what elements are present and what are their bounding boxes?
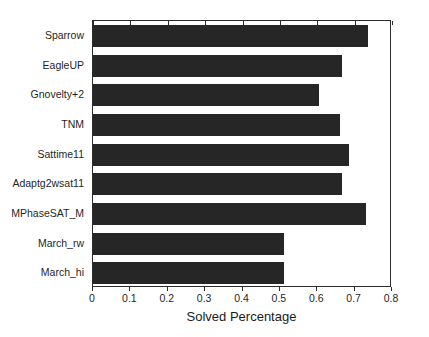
x-axis-tick-mark bbox=[242, 287, 243, 291]
x-axis-tick-label: 0.4 bbox=[234, 292, 249, 304]
y-axis-tick-label: TNM bbox=[61, 113, 84, 135]
y-axis-tick-label: March_hi bbox=[41, 261, 84, 283]
x-axis-tick-mark bbox=[204, 287, 205, 291]
x-axis-tick-label: 0.6 bbox=[309, 292, 324, 304]
bar-sattime11 bbox=[93, 144, 349, 166]
plot-area bbox=[92, 20, 391, 287]
y-axis-labels: Sparrow EagleUP Gnovelty+2 TNM Sattime11… bbox=[0, 20, 88, 287]
y-axis-tick-label: March_rw bbox=[38, 232, 84, 254]
bar-gnovelty2 bbox=[93, 84, 319, 106]
bar-row bbox=[93, 233, 284, 255]
bars-layer bbox=[93, 21, 390, 286]
x-axis-tick-mark bbox=[279, 287, 280, 291]
x-axis-top-tick-mark bbox=[243, 21, 244, 25]
x-axis-top-tick-mark bbox=[317, 21, 318, 25]
x-axis-tick-mark bbox=[391, 287, 392, 291]
x-axis-tick-label: 0 bbox=[89, 292, 95, 304]
x-axis-top-tick-mark bbox=[168, 21, 169, 25]
x-axis-tick-label: 0.7 bbox=[346, 292, 361, 304]
bar-row bbox=[93, 262, 284, 284]
bar-row bbox=[93, 114, 340, 136]
bar-row bbox=[93, 173, 342, 195]
x-axis-ticks: 00.10.20.30.40.50.60.70.8 bbox=[92, 287, 391, 309]
x-axis-tick-label: 0.2 bbox=[159, 292, 174, 304]
x-axis-tick-label: 0.8 bbox=[384, 292, 399, 304]
x-axis-top-tick-mark bbox=[392, 21, 393, 25]
bar-row bbox=[93, 144, 349, 166]
bar-mphasesat-m bbox=[93, 203, 366, 225]
bar-row bbox=[93, 84, 319, 106]
x-axis-tick-mark bbox=[354, 287, 355, 291]
y-axis-tick-label: Sattime11 bbox=[38, 143, 85, 165]
x-axis-tick-label: 0.3 bbox=[197, 292, 212, 304]
y-axis-tick-label: Sparrow bbox=[45, 24, 84, 46]
bar-march-hi bbox=[93, 262, 284, 284]
bar-row bbox=[93, 55, 342, 77]
x-axis-tick-mark bbox=[129, 287, 130, 291]
x-axis-top-tick-mark bbox=[130, 21, 131, 25]
x-axis-top-tick-mark bbox=[205, 21, 206, 25]
x-axis-tick-label: 0.1 bbox=[122, 292, 137, 304]
x-axis-tick-label: 0.5 bbox=[272, 292, 287, 304]
bar-row bbox=[93, 203, 366, 225]
bar-adaptg2wsat11 bbox=[93, 173, 342, 195]
x-axis-top-tick-mark bbox=[280, 21, 281, 25]
bar-march-rw bbox=[93, 233, 284, 255]
x-axis-top-tick-mark bbox=[93, 21, 94, 25]
bar-row bbox=[93, 25, 368, 47]
x-axis-tick-mark bbox=[167, 287, 168, 291]
x-axis-top-tick-mark bbox=[355, 21, 356, 25]
bar-chart: Sparrow EagleUP Gnovelty+2 TNM Sattime11… bbox=[0, 0, 429, 337]
y-axis-tick-label: Adaptg2wsat11 bbox=[12, 172, 84, 194]
y-axis-tick-label: MPhaseSAT_M bbox=[11, 202, 84, 224]
bar-sparrow bbox=[93, 25, 368, 47]
x-axis-tick-mark bbox=[92, 287, 93, 291]
x-axis-title: Solved Percentage bbox=[92, 309, 391, 324]
bar-tnm bbox=[93, 114, 340, 136]
y-axis-tick-label: Gnovelty+2 bbox=[31, 83, 84, 105]
y-axis-tick-label: EagleUP bbox=[43, 54, 84, 76]
bar-eagleup bbox=[93, 55, 342, 77]
x-axis-tick-mark bbox=[316, 287, 317, 291]
